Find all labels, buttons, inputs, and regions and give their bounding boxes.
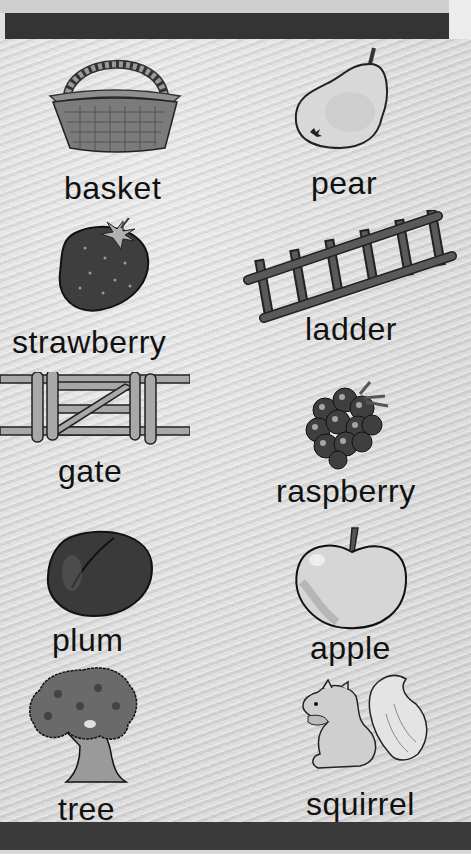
pear-icon bbox=[290, 42, 400, 162]
gate-icon bbox=[0, 372, 190, 447]
word-label: pear bbox=[311, 167, 377, 199]
top-margin-strip bbox=[0, 0, 471, 13]
top-right-margin bbox=[449, 0, 471, 39]
word-label: ladder bbox=[305, 313, 397, 345]
bottom-margin-strip bbox=[0, 850, 471, 854]
word-label: basket bbox=[64, 172, 161, 204]
tree-icon bbox=[28, 666, 140, 786]
plum-icon bbox=[44, 528, 156, 620]
word-label: strawberry bbox=[12, 326, 166, 358]
word-label: squirrel bbox=[306, 788, 415, 820]
raspberry-icon bbox=[300, 380, 395, 470]
squirrel-icon bbox=[298, 674, 438, 784]
word-label: tree bbox=[58, 793, 115, 825]
basket-icon bbox=[45, 50, 185, 160]
word-label: plum bbox=[52, 624, 123, 656]
ladder-icon bbox=[240, 210, 465, 325]
bottom-dark-band bbox=[0, 822, 471, 850]
word-label: raspberry bbox=[276, 475, 416, 507]
top-dark-band bbox=[5, 13, 449, 39]
apple-icon bbox=[292, 522, 412, 634]
word-label: gate bbox=[58, 455, 122, 487]
word-label: apple bbox=[310, 632, 391, 664]
strawberry-icon bbox=[55, 218, 155, 318]
